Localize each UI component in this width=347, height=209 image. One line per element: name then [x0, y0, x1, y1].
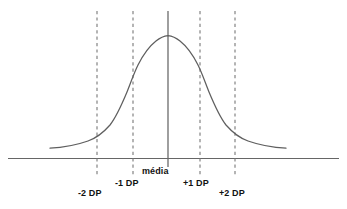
plus-two-sd-axis-label: +2 DP: [219, 188, 245, 198]
mean-axis-label: média: [142, 166, 169, 176]
minus-one-sd-axis-label: -1 DP: [115, 178, 139, 188]
distribution-plot: [0, 0, 347, 209]
normal-distribution-figure: média -2 DP -1 DP +1 DP +2 DP: [0, 0, 347, 209]
plus-one-sd-axis-label: +1 DP: [183, 178, 209, 188]
minus-two-sd-axis-label: -2 DP: [78, 188, 102, 198]
